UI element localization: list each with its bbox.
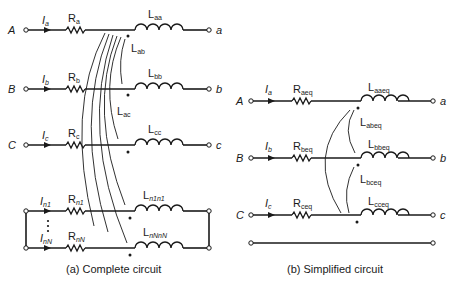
phase-a-line: A a Ia Ra Laa [7,8,222,38]
node-label-B: B [236,152,243,164]
mutual-label-bceq: Lbceq [360,173,381,187]
mutual-coupling-arcs [325,110,355,213]
node-label-c: c [440,209,446,221]
current-label: InN [40,232,53,245]
inductor-label: Laa [148,8,162,21]
neutral-conductor-N: InN RnN LnNnN [24,226,211,257]
polarity-dot [129,217,132,220]
inductor-icon [135,83,183,89]
terminal-A [24,28,28,32]
current-label: In1 [40,195,51,208]
resistor-icon [292,155,311,161]
polarity-dot [357,107,360,110]
terminal-a [207,28,211,32]
resistor-label: Rn1 [68,193,84,206]
current-arrow-icon [44,27,51,33]
current-arrow-icon [268,98,275,104]
current-arrow-icon [44,142,51,148]
resistor-label: Raeq [293,83,313,97]
resistor-label: Rb [68,71,80,84]
ground-return-line [249,241,435,245]
terminal-B [24,87,28,91]
circuit-diagram: A a Ia Ra Laa B b Ib Rb Lbb [0,0,457,288]
polarity-dot [129,254,132,257]
polarity-dot [127,35,130,38]
current-arrow-icon [44,86,51,92]
polarity-dot [356,221,359,224]
resistor-icon [292,212,311,218]
simplified-circuit: A a Ia Raeq Laaeq B b Ib Rbeq Lbbeq [235,81,446,275]
node-label-b: b [440,152,446,164]
current-label: Ib [265,140,272,153]
caption-complete: (a) Complete circuit [66,263,161,275]
resistor-label: Ra [68,12,80,25]
inductor-label: LnNnN [143,226,168,239]
inductor-icon [135,24,183,30]
mutual-label-ac: Lac [117,105,131,118]
phase-b-line: B b Ib Rb Lbb [8,67,222,97]
current-label: Ia [42,14,49,27]
terminal-C [249,213,253,217]
current-label: Ic [42,129,49,142]
current-label: Ia [265,83,272,96]
inductor-icon [361,95,409,101]
inductor-label: Lbbeq [368,138,390,152]
resistor-icon [66,27,85,33]
complete-circuit: A a Ia Ra Laa B b Ib Rb Lbb [7,8,222,275]
terminal-C [24,143,28,147]
phase-c-eq-line: C c Ic Rceq Lcceq [236,195,446,224]
resistor-label: RnN [68,230,86,243]
terminal-nN-out [207,246,211,250]
neutral-conductor-1: In1 Rn1 Ln1n1 [24,189,211,220]
resistor-icon [292,98,311,104]
inductor-label: Lcc [148,123,162,136]
terminal-c [431,213,435,217]
polarity-dot [357,164,360,167]
node-label-a: a [216,24,222,36]
current-label: Ic [265,197,272,210]
node-label-A: A [7,24,15,36]
inductor-icon [135,242,183,248]
inductor-label: Lbb [148,67,162,80]
node-label-B: B [8,83,15,95]
polarity-dot [127,151,130,154]
resistor-label: Rceq [293,197,312,211]
inductor-label: Laaeq [368,81,390,95]
inductor-label: Lcceq [368,195,389,209]
mutual-label-ab: Lab [131,42,145,55]
inductor-icon [361,152,409,158]
phase-a-eq-line: A a Ia Raeq Laaeq [235,81,446,110]
terminal-nN-in [24,246,28,250]
current-arrow-icon [268,212,275,218]
terminal-B [249,156,253,160]
ellipsis-dots [47,220,49,232]
current-arrow-icon [44,208,51,214]
current-label: Ib [42,73,49,86]
inductor-label: Ln1n1 [143,189,165,202]
node-label-b: b [216,83,222,95]
resistor-icon [66,245,85,251]
terminal-c [207,143,211,147]
resistor-icon [66,208,85,214]
resistor-label: Rc [68,127,80,140]
mutual-label-abeq: Labeq [360,116,382,130]
polarity-dot [127,94,130,97]
terminal-n1-out [207,209,211,213]
terminal-A [249,99,253,103]
inductor-icon [361,209,409,215]
terminal-b [207,87,211,91]
node-label-A: A [235,95,243,107]
inductor-icon [135,139,183,145]
current-arrow-icon [268,155,275,161]
terminal-n1-in [24,209,28,213]
terminal-a [431,99,435,103]
node-label-C: C [8,139,16,151]
resistor-label: Rbeq [293,140,313,154]
resistor-icon [66,86,85,92]
caption-simplified: (b) Simplified circuit [287,263,383,275]
node-label-c: c [216,139,222,151]
node-label-a: a [440,95,446,107]
terminal-b [431,156,435,160]
current-arrow-icon [44,245,51,251]
node-label-C: C [236,209,244,221]
